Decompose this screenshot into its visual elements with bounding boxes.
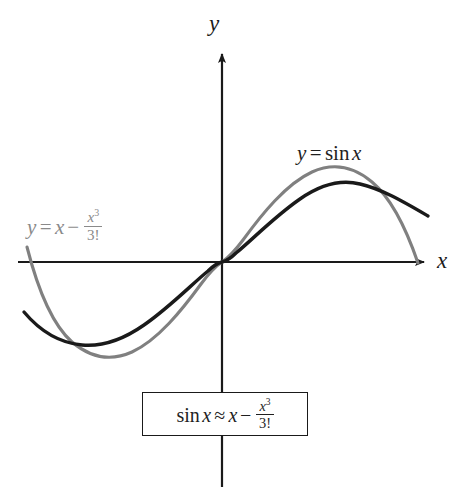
formula-numerator-exponent: 3 xyxy=(266,397,271,407)
formula-fraction-denominator: 3! xyxy=(256,415,273,430)
taylor-approximation-figure: y x y=sinx y=x− x3 3! sinx≈x− x3 3! xyxy=(0,0,472,494)
sine-label-equals: = xyxy=(310,141,322,165)
sine-label-y: y xyxy=(297,141,306,165)
taylor-label-y: y xyxy=(27,215,36,239)
taylor-label-x: x xyxy=(55,215,64,239)
sine-label-func: sin xyxy=(325,141,350,165)
x-axis-label: x xyxy=(437,249,447,272)
formula-fraction-numerator: x3 xyxy=(256,398,273,415)
formula-minus: − xyxy=(240,404,251,426)
taylor-fraction-denominator: 3! xyxy=(84,227,102,243)
result-formula-text: sinx≈x− x3 3! xyxy=(176,398,273,431)
formula-fraction: x3 3! xyxy=(256,398,273,431)
y-axis-label: y xyxy=(209,12,219,35)
taylor-numerator-exponent: 3 xyxy=(94,207,99,218)
formula-x: x xyxy=(228,404,237,426)
sine-curve xyxy=(24,182,428,345)
sine-label-arg: x xyxy=(352,141,361,165)
formula-arg: x xyxy=(202,404,211,426)
result-formula-box: sinx≈x− x3 3! xyxy=(142,392,308,436)
taylor-fraction-numerator: x3 xyxy=(84,208,102,227)
taylor-label-fraction: x3 3! xyxy=(84,208,102,243)
formula-approx-sign: ≈ xyxy=(214,404,225,426)
formula-func: sin xyxy=(176,404,199,426)
taylor-curve-label: y=x− x3 3! xyxy=(27,208,102,243)
sine-curve-label: y=sinx xyxy=(297,143,361,164)
taylor-label-equals: = xyxy=(40,215,52,239)
taylor-label-minus: − xyxy=(67,215,79,239)
